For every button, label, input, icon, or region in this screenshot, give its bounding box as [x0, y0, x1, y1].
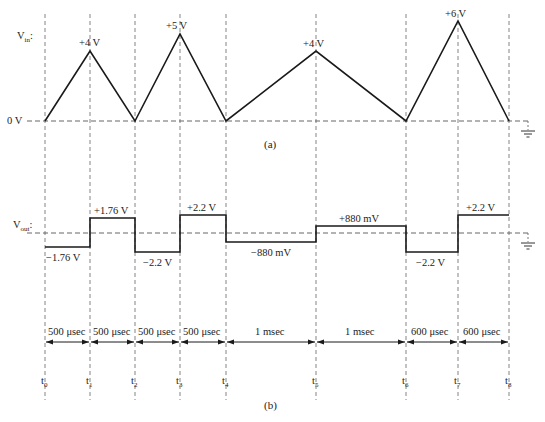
zero-volt-label: 0 V — [7, 115, 23, 126]
duration-label: 600 μsec — [463, 326, 501, 337]
waveform-figure: Vin: 0 V +4 V +5 V +4 V +6 V (a) Vout: −… — [0, 0, 545, 422]
level-label-t1-t2: +1.76 V — [94, 205, 129, 216]
duration-label: 500 μsec — [138, 326, 176, 337]
duration-label: 500 μsec — [48, 326, 86, 337]
level-label-t3-t4: +2.2 V — [187, 202, 216, 213]
vout-axis-label: Vout: — [13, 219, 33, 233]
time-marker-t4: t4 — [222, 375, 229, 389]
duration-label: 500 μsec — [93, 326, 131, 337]
level-label-t0-t1: −1.76 V — [46, 252, 81, 263]
level-label-t7-t8: +2.2 V — [466, 202, 495, 213]
caption-a: (a) — [264, 138, 277, 151]
time-marker-t7: t7 — [454, 375, 461, 389]
time-marker-t0: t0 — [41, 375, 48, 389]
time-marker-t2: t2 — [131, 375, 138, 389]
vin-triangle-waveform — [45, 21, 509, 121]
time-markers: t0 t1 t2 t3 t4 t5 t6 t7 t8 — [41, 375, 512, 389]
caption-b: (b) — [264, 399, 277, 412]
ground-symbol-icon — [521, 131, 535, 137]
duration-label: 600 μsec — [411, 326, 449, 337]
time-marker-t5: t5 — [312, 375, 319, 389]
ground-symbol-icon — [521, 243, 535, 249]
svg-text:Vin:: Vin: — [17, 30, 33, 44]
duration-label: 500 μsec — [183, 326, 221, 337]
duration-label: 1 msec — [345, 326, 375, 337]
level-label-t2-t3: −2.2 V — [143, 257, 172, 268]
peak-label-t3: +5 V — [166, 20, 188, 31]
time-marker-t1: t1 — [86, 375, 93, 389]
time-marker-t8: t8 — [505, 375, 512, 389]
svg-text:Vout:: Vout: — [13, 219, 33, 233]
peak-label-t1: +4 V — [79, 37, 101, 48]
level-label-t6-t7: −2.2 V — [416, 257, 445, 268]
peak-label-t7: +6 V — [445, 8, 467, 19]
level-label-t5-t6: +880 mV — [339, 213, 379, 224]
level-label-t4-t5: −880 mV — [251, 247, 291, 258]
time-marker-t3: t3 — [176, 375, 183, 389]
duration-labels: 500 μsec 500 μsec 500 μsec 500 μsec 1 ms… — [48, 326, 501, 337]
duration-label: 1 msec — [255, 326, 285, 337]
peak-label-t5: +4 V — [303, 38, 325, 49]
vin-axis-label: Vin: — [17, 30, 33, 44]
time-marker-t6: t6 — [402, 375, 409, 389]
